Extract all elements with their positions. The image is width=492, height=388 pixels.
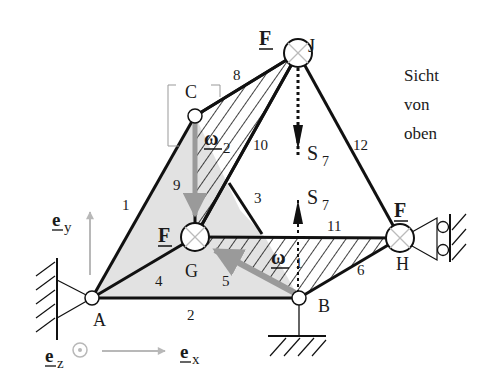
- support-a: [36, 258, 92, 340]
- svg-text:e: e: [52, 209, 60, 230]
- s7-labels: S 7 S 7: [307, 142, 329, 213]
- svg-text:2: 2: [187, 307, 195, 323]
- label-g: G: [185, 261, 198, 281]
- svg-text:7: 7: [322, 154, 329, 169]
- svg-text:y: y: [64, 219, 72, 235]
- force-j: F: [259, 27, 271, 49]
- svg-text:6: 6: [357, 262, 365, 278]
- label-a: A: [93, 310, 106, 330]
- svg-text:e: e: [180, 341, 188, 362]
- svg-text:S: S: [307, 186, 318, 208]
- svg-text:4: 4: [155, 273, 163, 289]
- label-j: J: [308, 36, 315, 56]
- joint-c: [188, 109, 202, 123]
- svg-text:3: 3: [254, 190, 262, 206]
- joint-a: [85, 291, 99, 305]
- svg-text:von: von: [404, 95, 430, 114]
- svg-text:Sicht: Sicht: [404, 66, 439, 85]
- force-g: F: [158, 224, 170, 246]
- force-h: F: [394, 199, 406, 221]
- label-c: C: [185, 82, 197, 102]
- label-b: B: [318, 296, 330, 316]
- svg-text:e: e: [45, 345, 53, 366]
- svg-text:1: 1: [122, 197, 130, 213]
- svg-text:7: 7: [322, 198, 329, 213]
- svg-text:5: 5: [222, 273, 230, 289]
- svg-text:z: z: [57, 355, 64, 371]
- svg-text:1: 1: [295, 255, 303, 271]
- svg-text:11: 11: [327, 218, 341, 234]
- omega-1: ω: [271, 246, 286, 268]
- support-h: [412, 214, 466, 262]
- svg-text:2: 2: [223, 140, 231, 156]
- svg-text:8: 8: [233, 67, 241, 83]
- svg-text:x: x: [192, 351, 200, 367]
- omega-2: ω: [204, 127, 219, 149]
- svg-text:10: 10: [253, 137, 268, 153]
- joint-g-cross-icon: [181, 223, 209, 251]
- svg-text:12: 12: [353, 137, 368, 153]
- svg-text:oben: oben: [404, 124, 438, 143]
- label-h: H: [396, 254, 409, 274]
- truss-diagram: C J G A B H 1 2 3 4 5 6 8 9 10 11 12 F F…: [0, 0, 492, 388]
- joint-h-cross-icon: [386, 224, 414, 252]
- view-note: Sicht von oben: [404, 66, 439, 143]
- svg-text:9: 9: [173, 177, 181, 193]
- svg-text:S: S: [307, 142, 318, 164]
- joint-b: [292, 291, 306, 305]
